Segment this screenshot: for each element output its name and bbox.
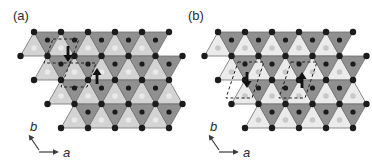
- vertex-atom: [242, 125, 248, 131]
- vertex-atom: [85, 77, 91, 83]
- up-center-atom: [242, 45, 248, 51]
- down-center-atom: [283, 85, 288, 90]
- down-center-atom: [310, 37, 315, 42]
- vertex-atom: [228, 101, 234, 107]
- up-center-atom: [72, 117, 78, 123]
- vertex-atom: [309, 53, 315, 59]
- vertex-atom: [98, 101, 104, 107]
- down-center-atom: [99, 37, 104, 42]
- vertex-atom: [350, 29, 356, 35]
- vertex-atom: [85, 125, 91, 131]
- up-center-atom: [58, 93, 64, 99]
- up-center-atom: [269, 93, 275, 99]
- vertex-atom: [112, 125, 118, 131]
- down-center-atom: [166, 61, 171, 66]
- up-center-atom: [112, 93, 118, 99]
- down-center-atom: [337, 37, 342, 42]
- down-center-atom: [269, 109, 274, 114]
- figure-canvas: (a)ab(b)ab: [0, 0, 372, 165]
- crystal-structure-figure: (a)ab(b)ab: [0, 0, 372, 165]
- down-center-atom: [283, 37, 288, 42]
- down-center-atom: [139, 61, 144, 66]
- vertex-atom: [336, 53, 342, 59]
- up-center-atom: [310, 117, 316, 123]
- vertex-atom: [179, 101, 185, 107]
- vertex-atom: [44, 101, 50, 107]
- vertex-atom: [363, 101, 369, 107]
- up-center-atom: [323, 45, 329, 51]
- b-axis-arrow: [32, 139, 40, 150]
- vertex-atom: [296, 29, 302, 35]
- down-center-atom: [153, 85, 158, 90]
- vertex-atom: [85, 29, 91, 35]
- vertex-atom: [255, 101, 261, 107]
- panel-b: (b)ab: [188, 8, 370, 160]
- up-center-atom: [85, 93, 91, 99]
- down-center-atom: [45, 37, 50, 42]
- vertex-atom: [336, 101, 342, 107]
- down-center-atom: [166, 109, 171, 114]
- vertex-atom: [58, 29, 64, 35]
- panel-label-b: (b): [188, 8, 204, 23]
- vertex-atom: [166, 125, 172, 131]
- up-center-atom: [283, 117, 289, 123]
- down-center-atom: [229, 37, 234, 42]
- vertex-atom: [215, 29, 221, 35]
- up-center-atom: [337, 69, 343, 75]
- vertex-atom: [125, 101, 131, 107]
- a-axis-label: a: [243, 145, 250, 160]
- up-center-atom: [112, 45, 118, 51]
- vertex-atom: [296, 125, 302, 131]
- vertex-atom: [139, 29, 145, 35]
- vertex-atom: [350, 77, 356, 83]
- down-center-atom: [323, 109, 328, 114]
- down-center-atom: [72, 37, 77, 42]
- up-center-atom: [256, 69, 262, 75]
- up-center-atom: [139, 93, 145, 99]
- down-center-atom: [296, 109, 301, 114]
- vertex-atom: [269, 77, 275, 83]
- up-center-atom: [269, 45, 275, 51]
- up-center-atom: [337, 117, 343, 123]
- vertex-atom: [228, 53, 234, 59]
- vertex-atom: [269, 29, 275, 35]
- a-axis-arrowhead: [233, 149, 239, 155]
- vertex-atom: [31, 29, 37, 35]
- up-center-atom: [85, 45, 91, 51]
- down-center-atom: [350, 61, 355, 66]
- up-center-atom: [296, 45, 302, 51]
- down-center-atom: [153, 37, 158, 42]
- down-center-atom: [350, 109, 355, 114]
- up-center-atom: [45, 69, 51, 75]
- down-center-atom: [58, 61, 63, 66]
- a-axis-arrowhead: [53, 149, 59, 155]
- down-center-atom: [85, 61, 90, 66]
- down-center-atom: [126, 85, 131, 90]
- down-center-atom: [139, 109, 144, 114]
- vertex-atom: [255, 53, 261, 59]
- vertex-atom: [282, 101, 288, 107]
- up-center-atom: [126, 117, 132, 123]
- vertex-atom: [201, 53, 207, 59]
- up-center-atom: [31, 45, 37, 51]
- vertex-atom: [112, 77, 118, 83]
- a-axis-label: a: [63, 145, 70, 160]
- down-center-atom: [256, 37, 261, 42]
- down-center-atom: [85, 109, 90, 114]
- up-center-atom: [323, 93, 329, 99]
- vertex-atom: [98, 53, 104, 59]
- up-center-atom: [72, 69, 78, 75]
- up-center-atom: [153, 69, 159, 75]
- vertex-atom: [71, 101, 77, 107]
- up-center-atom: [166, 93, 172, 99]
- vertex-atom: [139, 125, 145, 131]
- panel-a: (a)ab: [13, 8, 186, 160]
- up-center-atom: [350, 93, 356, 99]
- vertex-atom: [323, 125, 329, 131]
- down-center-atom: [337, 85, 342, 90]
- vertex-atom: [242, 29, 248, 35]
- vertex-atom: [215, 77, 221, 83]
- vertex-atom: [350, 125, 356, 131]
- down-center-atom: [99, 85, 104, 90]
- vertex-atom: [323, 77, 329, 83]
